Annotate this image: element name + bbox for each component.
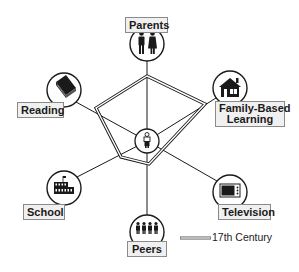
- legend-label: 17th Century: [212, 231, 272, 243]
- label-family-based-learning: Family-Based Learning: [215, 101, 285, 127]
- label-peers: Peers: [127, 241, 167, 257]
- tv-icon: [220, 184, 240, 197]
- node-family-based-learning: [213, 71, 247, 105]
- node-school: [47, 171, 81, 205]
- center-node: [135, 129, 159, 153]
- label-reading: Reading: [17, 102, 64, 118]
- label-school: School: [23, 204, 65, 220]
- label-television: Television: [218, 204, 271, 220]
- label-parents: Parents: [125, 17, 168, 33]
